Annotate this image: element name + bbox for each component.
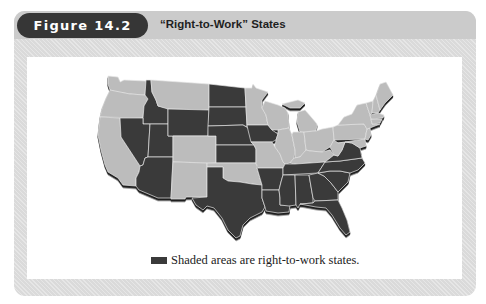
state-ks: [216, 145, 256, 163]
figure-number-badge: Figure 14.2: [17, 13, 148, 38]
state-co: [173, 136, 216, 163]
state-mi-lower: [297, 110, 317, 132]
figure-number: Figure 14.2: [33, 18, 131, 33]
map-legend: Shaded areas are right-to-work states.: [151, 253, 359, 268]
state-nd: [209, 84, 246, 107]
state-nm: [171, 162, 207, 199]
state-pa: [333, 124, 367, 140]
figure-title: “Right-to-Work” States: [160, 18, 286, 30]
state-ct-ri: [371, 119, 382, 124]
state-ms: [279, 175, 296, 206]
state-me: [376, 82, 393, 110]
state-fl: [300, 200, 350, 235]
state-ma: [370, 113, 384, 119]
state-sd: [208, 107, 247, 127]
state-mi-upper: [282, 100, 305, 108]
state-mt: [151, 80, 209, 110]
legend-label: Shaded areas are right-to-work states.: [171, 253, 359, 268]
state-wy: [168, 109, 209, 136]
us-map: [90, 65, 430, 245]
legend-swatch: [151, 257, 167, 264]
